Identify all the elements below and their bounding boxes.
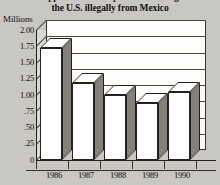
bar-side-face (62, 38, 72, 160)
y-axis-tick-label: 0 (4, 156, 34, 165)
x-axis-tick-label: 1986 (37, 171, 71, 180)
bar-front-face (40, 48, 62, 160)
bar-1987[interactable] (72, 83, 94, 160)
y-axis-tick-label: .50 (4, 123, 34, 132)
bar-side-face (94, 73, 104, 160)
y-axis-tick-label: 2.00 (4, 26, 34, 35)
x-axis-line (36, 160, 216, 161)
y-axis-tick-label: 1.25 (4, 74, 34, 83)
x-axis-tick-label: 1988 (101, 171, 135, 180)
bar-1989[interactable] (136, 103, 158, 160)
x-axis-tick-mark (196, 161, 197, 169)
bar-side-face (158, 93, 168, 160)
x-axis-tick-mark (68, 161, 69, 169)
y-axis-tick-label: .75 (4, 107, 34, 116)
y-axis-line (36, 30, 37, 160)
bar-1990[interactable] (168, 92, 190, 160)
gridline (46, 20, 206, 21)
y-axis-tick-label: 1.00 (4, 91, 34, 100)
bar-side-face (126, 85, 136, 160)
bar-front-face (72, 83, 94, 160)
y-axis-tick-label: 1.75 (4, 42, 34, 51)
x-axis-tick-label: 1989 (133, 171, 167, 180)
bar-front-face (136, 103, 158, 160)
bar-chart: 2.001.751.501.251.00.75.50.250 198619871… (0, 0, 220, 185)
bar-1986[interactable] (40, 48, 62, 160)
x-axis-tick-label: 1990 (165, 171, 199, 180)
x-axis-tick-mark (164, 161, 165, 169)
x-axis-tick-label: 1987 (69, 171, 103, 180)
y-axis-tick-label: 1.50 (4, 58, 34, 67)
y-axis-tick-label: .25 (4, 139, 34, 148)
x-axis-tick-mark (132, 161, 133, 169)
x-axis-tick-mark (36, 161, 37, 169)
x-axis-tick-mark (100, 161, 101, 169)
bar-front-face (104, 95, 126, 160)
bar-1988[interactable] (104, 95, 126, 160)
y-axis-tick-labels: 2.001.751.501.251.00.75.50.250 (0, 0, 34, 185)
bar-front-face (168, 92, 190, 160)
bar-side-face (190, 82, 200, 160)
